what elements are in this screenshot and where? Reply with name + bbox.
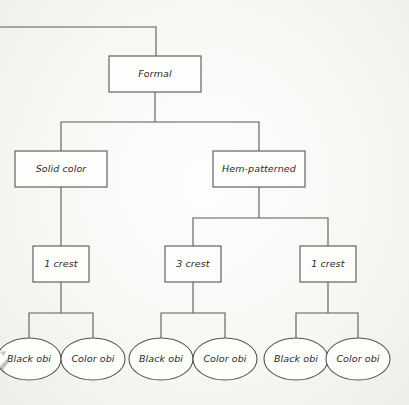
node-solid-color[interactable]: Solid color (15, 151, 107, 187)
node-label-formal: Formal (138, 68, 172, 79)
node-label-black-obi-2: Black obi (139, 353, 183, 364)
node-label-black-obi-1: Black obi (7, 353, 51, 364)
edge-crest3-split (161, 282, 225, 338)
edge-formal-split (61, 92, 259, 151)
node-color-obi-3[interactable]: Color obi (326, 338, 390, 380)
node-black-obi-3[interactable]: Black obi (264, 338, 328, 380)
node-black-obi-2[interactable]: Black obi (129, 338, 193, 380)
node-label-crest-1-left: 1 crest (44, 258, 79, 269)
node-label-color-obi-3: Color obi (336, 353, 379, 364)
node-color-obi-2[interactable]: Color obi (193, 338, 257, 380)
node-label-black-obi-3: Black obi (274, 353, 318, 364)
tree-diagram: FormalSolid colorHem-patterned1 crest3 c… (0, 0, 409, 405)
node-label-color-obi-1: Color obi (71, 353, 114, 364)
node-color-obi-1[interactable]: Color obi (61, 338, 125, 380)
node-label-crest-1-right: 1 crest (311, 258, 346, 269)
node-crest-3[interactable]: 3 crest (165, 246, 221, 282)
node-formal[interactable]: Formal (109, 56, 201, 92)
node-label-crest-3: 3 crest (176, 258, 211, 269)
edge-crest1l-split (29, 282, 93, 338)
node-crest-1-right[interactable]: 1 crest (300, 246, 356, 282)
edge-crest1r-split (296, 282, 358, 338)
edge-hem-split (193, 187, 328, 246)
node-crest-1-left[interactable]: 1 crest (33, 246, 89, 282)
node-label-solid-color: Solid color (36, 163, 88, 174)
edge-incoming-root (0, 27, 156, 56)
node-label-hem-patterned: Hem-patterned (222, 163, 297, 174)
node-label-color-obi-2: Color obi (203, 353, 246, 364)
diagram-page: FormalSolid colorHem-patterned1 crest3 c… (0, 0, 409, 405)
node-hem-patterned[interactable]: Hem-patterned (213, 151, 305, 187)
node-black-obi-1[interactable]: Black obi (0, 338, 61, 380)
